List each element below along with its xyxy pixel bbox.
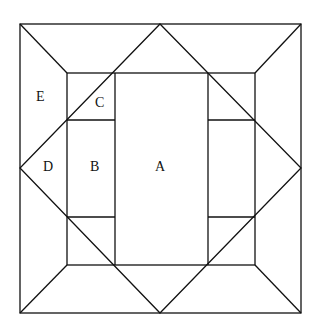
label-e: E bbox=[36, 89, 45, 105]
label-d: D bbox=[43, 159, 53, 175]
label-a: A bbox=[155, 159, 165, 175]
quilt-block-diagram: A B C D E bbox=[0, 0, 320, 330]
label-b: B bbox=[90, 159, 99, 175]
label-c: C bbox=[95, 95, 104, 111]
